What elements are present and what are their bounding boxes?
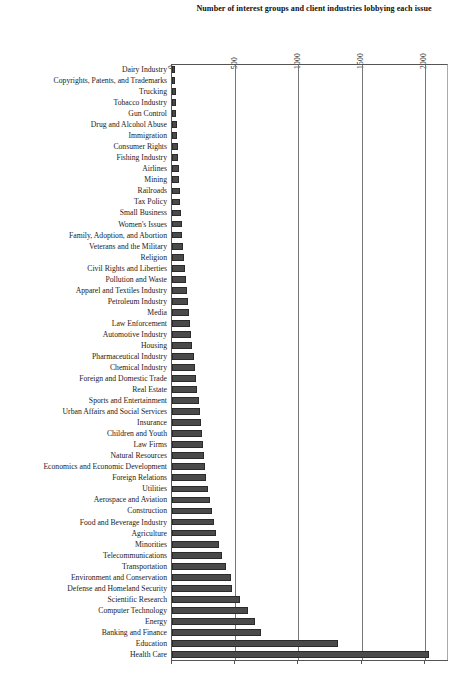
bar-row: Aerospace and Aviation — [0, 494, 457, 505]
bar — [172, 629, 261, 636]
bar-row: Foreign Relations — [0, 472, 457, 483]
bar-row: Dairy Industry — [0, 64, 457, 75]
category-label: Pollution and Waste — [105, 274, 167, 285]
bar-row: Pharmaceutical Industry — [0, 351, 457, 362]
category-label: Media — [147, 307, 167, 318]
bar-row: Foreign and Domestic Trade — [0, 373, 457, 384]
bar — [172, 199, 180, 206]
bar — [172, 541, 219, 548]
bar-row: Banking and Finance — [0, 627, 457, 638]
bar — [172, 309, 189, 316]
bar-row: Drug and Alcohol Abuse — [0, 119, 457, 130]
category-label: Housing — [141, 340, 167, 351]
category-label: Defense and Homeland Security — [67, 583, 167, 594]
category-label: Trucking — [139, 86, 167, 97]
x-axis-line — [171, 660, 448, 661]
category-label: Pharmaceutical Industry — [92, 351, 167, 362]
category-label: Gun Control — [128, 108, 167, 119]
category-label: Fishing Industry — [116, 152, 167, 163]
category-label: Urban Affairs and Social Services — [63, 406, 167, 417]
bar-row: Insurance — [0, 417, 457, 428]
bar — [172, 331, 191, 338]
category-label: Sports and Entertainment — [89, 395, 167, 406]
bar-row: Environment and Conservation — [0, 572, 457, 583]
bar-row: Agriculture — [0, 528, 457, 539]
category-label: Environment and Conservation — [71, 572, 167, 583]
category-label: Religion — [141, 252, 167, 263]
bar — [172, 165, 179, 172]
bar — [172, 463, 205, 470]
bar-row: Veterans and the Military — [0, 241, 457, 252]
category-label: Tax Policy — [134, 196, 167, 207]
category-label: Apparel and Textiles Industry — [76, 285, 167, 296]
tick-mark-1500 — [361, 660, 362, 664]
bar-row: Tax Policy — [0, 196, 457, 207]
tick-mark-0 — [171, 660, 172, 664]
bar — [172, 519, 214, 526]
bar — [172, 243, 183, 250]
category-label: Minorities — [135, 539, 167, 550]
category-label: Railroads — [138, 185, 167, 196]
bar — [172, 232, 182, 239]
bar-row: Chemical Industry — [0, 362, 457, 373]
bar — [172, 88, 176, 95]
bar-row: Tobacco Industry — [0, 97, 457, 108]
bar-chart-figure: Number of interest groups and client ind… — [0, 0, 457, 673]
category-label: Transportation — [122, 561, 167, 572]
bar-row: Mining — [0, 174, 457, 185]
bar — [172, 651, 429, 658]
bar-row: Copyrights, Patents, and Trademarks — [0, 75, 457, 86]
bar — [172, 176, 179, 183]
bar — [172, 188, 180, 195]
bar-row: Women's Issues — [0, 219, 457, 230]
bar-row: Gun Control — [0, 108, 457, 119]
bar-row: Civil Rights and Liberties — [0, 263, 457, 274]
category-label: Energy — [145, 616, 167, 627]
category-label: Computer Technology — [98, 605, 167, 616]
bar — [172, 563, 226, 570]
bar-row: Consumer Rights — [0, 141, 457, 152]
category-label: Banking and Finance — [102, 627, 167, 638]
bar — [172, 154, 178, 161]
tick-mark-2000 — [424, 660, 425, 664]
bar — [172, 265, 185, 272]
bar-row: Small Business — [0, 207, 457, 218]
bar-row: Computer Technology — [0, 605, 457, 616]
bar-row: Petroleum Industry — [0, 296, 457, 307]
category-label: Foreign Relations — [112, 472, 167, 483]
bar — [172, 596, 240, 603]
category-label: Agriculture — [132, 528, 167, 539]
tick-mark-500 — [234, 660, 235, 664]
category-label: Dairy Industry — [122, 64, 167, 75]
category-label: Utilities — [142, 483, 167, 494]
bar — [172, 419, 201, 426]
bar — [172, 618, 255, 625]
bar — [172, 110, 176, 117]
category-label: Insurance — [137, 417, 167, 428]
category-label: Health Care — [130, 649, 167, 660]
bar — [172, 121, 177, 128]
bar-row: Energy — [0, 616, 457, 627]
bar-row: Economics and Economic Development — [0, 461, 457, 472]
category-label: Food and Beverage Industry — [80, 517, 167, 528]
category-label: Airlines — [142, 163, 167, 174]
bar-row: Apparel and Textiles Industry — [0, 285, 457, 296]
bar — [172, 254, 184, 261]
category-label: Immigration — [129, 130, 167, 141]
bar-row: Sports and Entertainment — [0, 395, 457, 406]
bar — [172, 386, 197, 393]
bar-row: Immigration — [0, 130, 457, 141]
bar — [172, 364, 195, 371]
bar — [172, 132, 177, 139]
bar — [172, 452, 204, 459]
bar-row: Defense and Homeland Security — [0, 583, 457, 594]
category-label: Chemical Industry — [110, 362, 167, 373]
category-label: Drug and Alcohol Abuse — [91, 119, 167, 130]
bar — [172, 210, 181, 217]
bar — [172, 77, 175, 84]
bar-row: Health Care — [0, 649, 457, 660]
bar-row: Law Firms — [0, 439, 457, 450]
bar-row: Urban Affairs and Social Services — [0, 406, 457, 417]
category-label: Aerospace and Aviation — [94, 494, 167, 505]
bar — [172, 474, 206, 481]
